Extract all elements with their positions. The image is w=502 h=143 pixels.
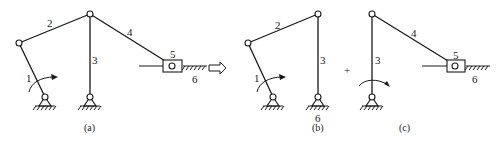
- subfigure-c: 4 3 5 6 (c): [359, 11, 490, 134]
- label-link-3: 3: [92, 54, 98, 66]
- caption-c: (c): [399, 122, 410, 134]
- link-1: [248, 43, 273, 97]
- caption-b: (b): [312, 122, 324, 134]
- joint-B: [87, 11, 93, 17]
- label-link-1: 1: [254, 72, 260, 84]
- ground-pivot-rocker: [78, 94, 101, 110]
- link-2: [19, 14, 90, 43]
- label-slider-5: 5: [453, 49, 459, 61]
- caption-a: (a): [84, 122, 95, 134]
- decomposition-arrow-icon: [209, 62, 226, 74]
- joint-A: [245, 40, 251, 46]
- rotation-arrow-icon: [359, 80, 388, 86]
- label-link-1: 1: [26, 72, 32, 84]
- label-frame-6: 6: [192, 73, 198, 85]
- link-4: [90, 14, 170, 64]
- mechanism-diagram: 2 4 3 1 5 6 (a) 2 3 1 6 (b) +: [0, 0, 502, 143]
- frame-hatch: [182, 66, 207, 70]
- slider-pin: [452, 63, 458, 69]
- plus-sign: +: [344, 64, 350, 76]
- label-frame-6: 6: [472, 73, 478, 85]
- ground-pivot-crank: [261, 94, 284, 110]
- label-link-2: 2: [47, 17, 53, 29]
- joint-B: [315, 11, 321, 17]
- slider-pin: [169, 63, 175, 69]
- label-slider-5: 5: [170, 48, 176, 60]
- label-link-3: 3: [375, 54, 381, 66]
- label-link-4: 4: [127, 26, 133, 38]
- subfigure-b: 2 3 1 6 (b): [245, 11, 329, 134]
- link-4: [372, 14, 453, 64]
- rotation-arrowhead: [384, 81, 390, 87]
- link-1: [19, 43, 45, 97]
- joint-A: [16, 40, 22, 46]
- rotation-arrowhead: [279, 74, 286, 80]
- ground-pivot-rocker: [306, 94, 329, 110]
- ground-pivot-crank: [33, 94, 56, 110]
- ground-pivot-rocker: [360, 94, 383, 110]
- link-2: [248, 14, 318, 43]
- label-link-2: 2: [275, 19, 281, 31]
- frame-hatch: [465, 66, 490, 70]
- label-link-4: 4: [411, 27, 417, 39]
- subfigure-a: 2 4 3 1 5 6 (a): [16, 11, 207, 134]
- rotation-arrowhead: [51, 74, 58, 80]
- joint-B: [369, 11, 375, 17]
- label-link-3: 3: [320, 54, 326, 66]
